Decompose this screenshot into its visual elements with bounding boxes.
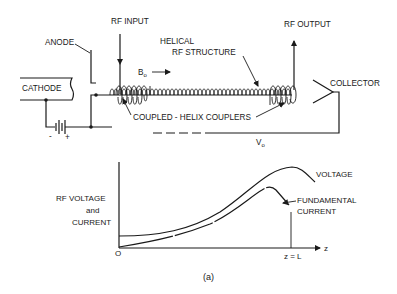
x-axis-label: z — [324, 244, 328, 253]
current-leader — [283, 201, 296, 203]
rf-voltage-current-chart: z O z = L RF VOLTAGE and CURRENT VOLTAGE… — [56, 162, 357, 261]
figure-caption: (a) — [203, 272, 214, 282]
current-curve — [119, 187, 289, 247]
anode-upper-plate — [91, 50, 96, 83]
collector-label: COLLECTOR — [330, 79, 380, 88]
y-label-line3: CURRENT — [72, 218, 111, 227]
z-equals-l-label: z = L — [284, 252, 302, 261]
y-label-line2: and — [86, 206, 99, 215]
helical-leader — [243, 56, 258, 86]
current-series-label1: FUNDAMENTAL — [297, 196, 357, 205]
battery-wire-left — [46, 100, 55, 127]
schematic: RF INPUT ANODE CATHODE - + — [20, 17, 380, 148]
current-series-label2: CURRENT — [297, 207, 336, 216]
couplers-leader-left — [123, 99, 131, 115]
helical-label: HELICAL — [160, 37, 195, 46]
couplers-leader-right — [256, 103, 284, 117]
voltage-series-label: VOLTAGE — [316, 170, 353, 179]
voltage-label: Vo — [256, 138, 265, 148]
rf-output-label: RF OUTPUT — [284, 20, 331, 29]
anode-node — [89, 125, 93, 129]
origin-label: O — [115, 249, 121, 258]
rf-input-label: RF INPUT — [111, 17, 149, 26]
rf-structure-label: RF STRUCTURE — [172, 48, 236, 57]
helix-twt-figure: RF INPUT ANODE CATHODE - + — [0, 0, 397, 294]
couplers-label: COUPLED - HELIX COUPLERS — [133, 113, 251, 122]
battery-minus: - — [49, 132, 52, 141]
anode-leader — [75, 44, 90, 53]
cathode-label: CATHODE — [22, 84, 62, 93]
y-label-line1: RF VOLTAGE — [56, 194, 106, 203]
battery-plus: + — [65, 133, 70, 142]
b-field-label: Bo — [138, 68, 147, 78]
anode-label: ANODE — [45, 38, 75, 47]
anode-lower-plate — [91, 95, 96, 127]
